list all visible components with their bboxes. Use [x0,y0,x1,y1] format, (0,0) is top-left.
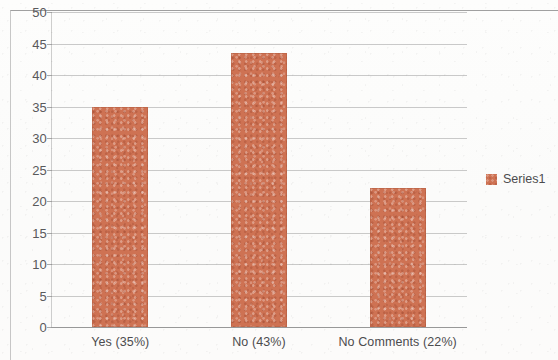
y-axis-tick-5 [47,296,52,297]
y-axis-label-5: 5 [3,288,47,303]
y-axis-tick-10 [47,264,52,265]
chart-legend: Series1 [486,172,545,186]
legend-label-series1: Series1 [503,172,545,186]
y-axis-tick-35 [47,107,52,108]
y-axis-label-20: 20 [3,194,47,209]
y-axis-label-40: 40 [3,68,47,83]
y-axis-tick-50 [47,12,52,13]
y-axis-tick-20 [47,201,52,202]
y-axis-tick-45 [47,44,52,45]
bar-0[interactable] [92,107,148,328]
y-axis-tick-30 [47,138,52,139]
y-axis-label-15: 15 [3,225,47,240]
x-axis-label-1: No (43%) [232,335,286,349]
page-frame-top-border [10,10,558,11]
y-axis-tick-40 [47,75,52,76]
y-axis-tick-25 [47,170,52,171]
x-axis-label-0: Yes (35%) [91,335,149,349]
bar-1[interactable] [231,53,287,327]
y-axis-label-0: 0 [3,320,47,335]
bar-2[interactable] [370,188,426,327]
legend-swatch-series1 [486,174,497,185]
y-axis-tick-0 [47,327,52,328]
y-axis-label-35: 35 [3,99,47,114]
gridline-45 [51,44,467,45]
x-axis-label-2: No Comments (22%) [338,335,456,349]
y-axis-label-50: 50 [3,5,47,20]
y-axis-tick-15 [47,233,52,234]
y-axis-label-45: 45 [3,36,47,51]
gridline-0 [51,327,467,328]
y-axis-label-30: 30 [3,131,47,146]
y-axis-label-25: 25 [3,162,47,177]
y-axis-label-10: 10 [3,257,47,272]
gridline-50 [51,12,467,13]
plot-area [51,12,467,327]
y-axis-tick-labels: 05101520253035404550 [0,12,47,327]
